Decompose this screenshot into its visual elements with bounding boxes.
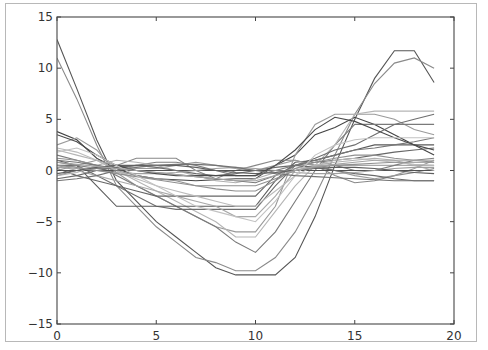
series-line-s7 [57,114,434,209]
y-tick-label: 10 [38,61,53,75]
y-tick-label: 15 [38,10,53,24]
x-axis-tick-labels: 05101520 [53,329,461,343]
x-tick-label: 15 [347,329,362,343]
y-tick-label: −10 [28,266,53,280]
y-tick-label: 0 [45,164,53,178]
x-tick-label: 5 [152,329,160,343]
y-axis-tick-labels: 151050−5−10−15 [28,10,53,331]
series-line-s1 [57,40,434,275]
line-chart: 05101520 151050−5−10−15 [0,0,488,350]
series-lines [57,40,434,275]
y-tick-label: −15 [28,317,53,331]
x-tick-label: 10 [248,329,263,343]
x-tick-label: 0 [53,329,61,343]
x-tick-label: 20 [446,329,461,343]
y-tick-label: −5 [35,215,53,229]
y-tick-label: 5 [45,112,53,126]
series-line-s5 [57,124,434,252]
series-line-s20 [57,148,434,206]
